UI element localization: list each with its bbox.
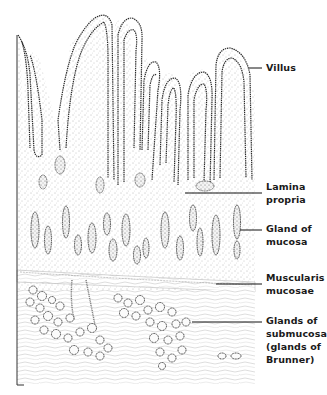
label-lamina-propria: Lamina propria [266,180,306,206]
label-muscularis-mucosae: Muscularis mucosae [266,271,325,297]
label-glands-of-submucosa: Glands of submucosa (glands of Brunner) [266,314,327,366]
label-villus: Villus [266,61,296,74]
label-gland-of-mucosa: Gland of mucosa [266,222,312,248]
